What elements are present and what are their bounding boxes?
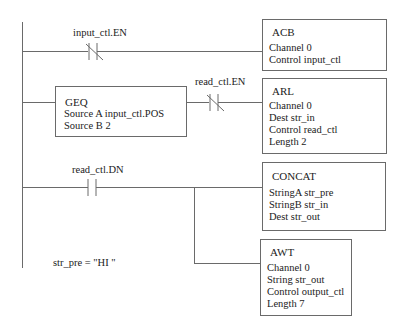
block-title: ARL <box>272 85 294 97</box>
block-field: Length 2 <box>269 136 338 148</box>
rung-3-contact-label: read_ctl.DN <box>72 164 124 175</box>
block-field: Channel 0 <box>269 100 338 112</box>
arl-instruction-block: ARL Channel 0 Dest str_in Control read_c… <box>262 78 387 154</box>
branch-wire-vertical <box>194 187 195 264</box>
branch-wire-horizontal <box>194 263 260 264</box>
block-field: Control input_ctl <box>269 54 341 66</box>
block-field: String str_out <box>267 274 344 286</box>
rung-2-contact-label: read_ctl.EN <box>195 76 245 87</box>
block-field: Control read_ctl <box>269 124 338 136</box>
block-field: StringB str_in <box>269 199 333 211</box>
rung-2-wire-left <box>22 102 55 103</box>
block-field: StringA str_pre <box>269 187 333 199</box>
block-field: Control output_ctl <box>267 286 344 298</box>
block-field: Dest str_in <box>269 112 338 124</box>
block-field: Channel 0 <box>269 42 341 54</box>
geq-instruction-block: GEQ Source A input_ctl.POS Source B 2 <box>55 86 187 137</box>
block-title: ACB <box>272 26 295 38</box>
acb-instruction-block: ACB Channel 0 Control input_ctl <box>262 19 387 71</box>
initial-value-note: str_pre = "HI " <box>53 257 116 268</box>
awt-instruction-block: AWT Channel 0 String str_out Control out… <box>260 239 352 316</box>
rung-1-wire-left <box>22 51 88 52</box>
block-title: GEQ <box>65 96 88 108</box>
block-title: CONCAT <box>272 170 316 182</box>
block-field: Source B 2 <box>64 120 164 132</box>
block-field: Length 7 <box>267 298 344 310</box>
block-field: Dest str_out <box>269 211 333 223</box>
block-title: AWT <box>270 246 294 258</box>
rung-1-wire-right <box>97 51 262 52</box>
rung-2-wire-mid <box>187 102 209 103</box>
left-power-rail <box>22 22 23 268</box>
block-field: Source A input_ctl.POS <box>64 108 164 120</box>
rung-1-contact-label: input_ctl.EN <box>73 27 127 38</box>
block-field: Channel 0 <box>267 262 344 274</box>
rung-3-wire-left <box>22 187 88 188</box>
concat-instruction-block: CONCAT StringA str_pre StringB str_in De… <box>262 162 386 231</box>
rung-3-wire-right <box>96 187 262 188</box>
rung-2-wire-right <box>218 102 262 103</box>
